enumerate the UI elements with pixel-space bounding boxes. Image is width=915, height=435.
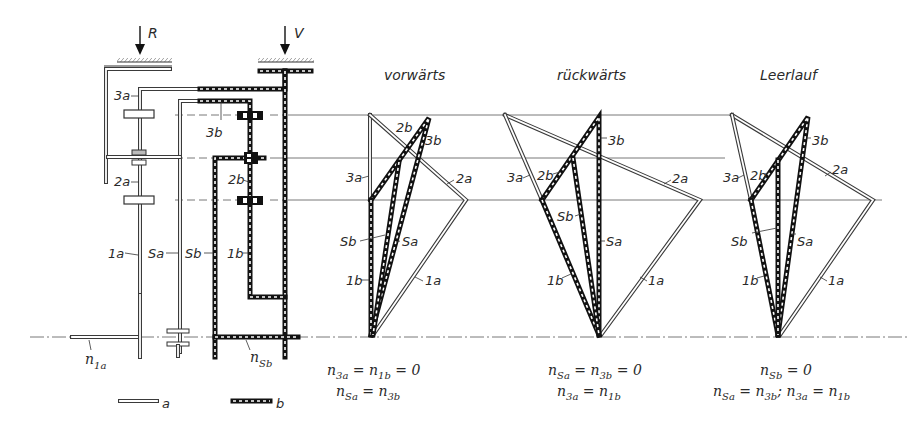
- svg-text:1b: 1b: [346, 273, 363, 288]
- svg-text:1a: 1a: [108, 246, 124, 261]
- equation-line-1: nSb = 0: [760, 362, 812, 381]
- equation-line-1: n3a = n1b = 0: [327, 362, 420, 381]
- legend: a b: [120, 396, 284, 411]
- svg-text:Sb: Sb: [185, 246, 202, 261]
- legend-item-b: b: [233, 396, 284, 411]
- svg-text:Sb: Sb: [731, 234, 748, 249]
- arrow-down-icon: [135, 44, 145, 55]
- svg-text:1b: 1b: [547, 273, 564, 288]
- svg-text:Sa: Sa: [402, 234, 418, 249]
- svg-text:3a: 3a: [346, 170, 362, 185]
- svg-text:b: b: [276, 396, 284, 411]
- svg-text:Sb: Sb: [340, 234, 357, 249]
- svg-text:2b: 2b: [537, 168, 554, 183]
- equation-line-1: nSa = n3b = 0: [548, 362, 642, 381]
- brake-R: R: [104, 25, 172, 70]
- planetary-gear-diagram: R V: [0, 0, 915, 435]
- svg-text:nSb: nSb: [250, 349, 272, 369]
- svg-text:vorwärts: vorwärts: [384, 67, 445, 83]
- svg-text:2b: 2b: [228, 172, 245, 187]
- speed-diagram-leerlauf: Leerlauf 3b 3a 2b 2a Sb Sa 1b 1a nSb = 0: [713, 67, 873, 402]
- shaft-speed-nSb: nSb: [246, 340, 272, 369]
- schematic-system-b: [200, 71, 311, 357]
- svg-text:2b: 2b: [396, 120, 413, 135]
- legend-item-a: a: [120, 396, 170, 411]
- schematic-system-a: [72, 69, 200, 357]
- brake-V: V: [258, 25, 314, 62]
- arrow-down-icon: [280, 44, 290, 55]
- svg-text:3a: 3a: [114, 88, 130, 103]
- svg-text:1b: 1b: [227, 246, 244, 261]
- svg-text:Sa: Sa: [148, 246, 164, 261]
- svg-text:1a: 1a: [648, 273, 664, 288]
- svg-text:2a: 2a: [832, 162, 848, 177]
- svg-text:2a: 2a: [114, 174, 130, 189]
- svg-text:Sa: Sa: [797, 234, 813, 249]
- svg-text:n1a: n1a: [85, 351, 106, 371]
- speed-diagram-rueckwaerts: rückwärts 3b 3a 2b 2a Sb Sa 1b 1a nSa = …: [505, 67, 700, 402]
- svg-text:3b: 3b: [206, 125, 223, 140]
- svg-text:1b: 1b: [742, 273, 759, 288]
- svg-text:3a: 3a: [723, 170, 739, 185]
- shaft-speed-n1a: n1a: [85, 340, 106, 371]
- svg-text:3a: 3a: [507, 170, 523, 185]
- svg-text:R: R: [148, 25, 158, 41]
- svg-text:2b: 2b: [750, 168, 767, 183]
- svg-text:1a: 1a: [828, 273, 844, 288]
- svg-text:3b: 3b: [608, 133, 625, 148]
- svg-text:2a: 2a: [672, 171, 688, 186]
- svg-text:rückwärts: rückwärts: [557, 67, 626, 83]
- equation-line-2: n3a = n1b: [557, 383, 621, 402]
- svg-text:Sa: Sa: [606, 234, 622, 249]
- svg-text:Sb: Sb: [557, 209, 574, 224]
- svg-text:3b: 3b: [425, 133, 442, 148]
- svg-text:3b: 3b: [812, 133, 829, 148]
- svg-text:a: a: [162, 396, 170, 411]
- svg-text:V: V: [294, 25, 305, 41]
- speed-diagram-vorwaerts: vorwärts 2b 3b 3a 2a Sb Sa 1b 1a n3a = n…: [327, 67, 472, 402]
- equation-line-2: nSa = n3b: [336, 383, 400, 402]
- svg-text:1a: 1a: [425, 273, 441, 288]
- svg-text:Leerlauf: Leerlauf: [760, 67, 819, 83]
- svg-text:2a: 2a: [456, 171, 472, 186]
- equation-line-2: nSa = n3b; n3a = n1b: [713, 383, 850, 402]
